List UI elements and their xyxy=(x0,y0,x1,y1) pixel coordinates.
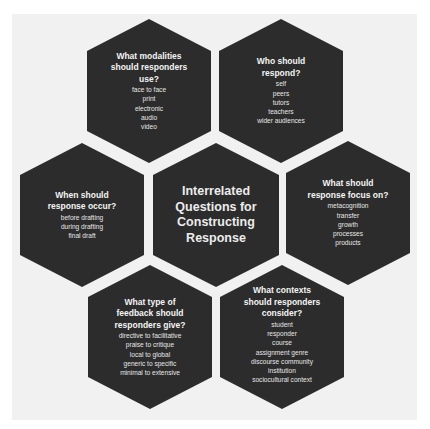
item: during drafting xyxy=(61,222,104,231)
question-line: Who should xyxy=(257,56,306,68)
question-line: responders give? xyxy=(115,320,186,332)
hex-items: before drafting during drafting final dr… xyxy=(61,213,104,241)
hex-question: Who should respond? xyxy=(257,56,306,79)
item: student xyxy=(251,320,313,329)
hex-question: What modalities should responders use? xyxy=(111,51,188,86)
hex-items: directive to facilitative praise to crit… xyxy=(119,331,182,377)
question-line: response occur? xyxy=(48,201,117,213)
question-line: What type of xyxy=(115,297,186,309)
item: directive to facilitative xyxy=(119,331,182,340)
hex-question: What should response focus on? xyxy=(308,178,389,201)
item: electronic xyxy=(132,104,166,113)
item: print xyxy=(132,94,166,103)
item: minimal to extensive xyxy=(119,368,182,377)
item: processes xyxy=(327,229,368,238)
question-line: use? xyxy=(111,74,188,86)
item: transfer xyxy=(327,211,368,220)
title-line: Constructing xyxy=(175,215,256,231)
item: growth xyxy=(327,220,368,229)
hex-question: What contexts should responders consider… xyxy=(244,285,321,320)
item: products xyxy=(327,238,368,247)
hex-question: When should response occur? xyxy=(48,190,117,213)
item: praise to critique xyxy=(119,340,182,349)
title-line: Response xyxy=(175,231,256,247)
hex-items: student responder course assignment genr… xyxy=(251,320,313,385)
question-line: consider? xyxy=(244,308,321,320)
question-line: should responders xyxy=(111,62,188,74)
item: peers xyxy=(257,89,305,98)
item: self xyxy=(257,79,305,88)
item: assignment genre xyxy=(251,348,313,357)
question-line: What should xyxy=(308,178,389,190)
title-line: Interrelated xyxy=(175,184,256,200)
item: metacognition xyxy=(327,201,368,210)
item: generic to specific xyxy=(119,359,182,368)
title-line: Questions for xyxy=(175,200,256,216)
item: final draft xyxy=(61,231,104,240)
question-line: response focus on? xyxy=(308,190,389,202)
item: responder xyxy=(251,329,313,338)
question-line: What contexts xyxy=(244,285,321,297)
item: institution xyxy=(251,366,313,375)
hex-question: What type of feedback should responders … xyxy=(115,297,186,332)
question-line: respond? xyxy=(257,68,306,80)
hex-items: face to face print electronic audio vide… xyxy=(132,85,166,131)
center-title: Interrelated Questions for Constructing … xyxy=(175,184,256,246)
hex-items: metacognition transfer growth processes … xyxy=(327,201,368,247)
question-line: should responders xyxy=(244,297,321,309)
item: wider audiences xyxy=(257,116,305,125)
question-line: feedback should xyxy=(115,308,186,320)
item: video xyxy=(132,122,166,131)
item: local to global xyxy=(119,350,182,359)
hex-items: self peers tutors teachers wider audienc… xyxy=(257,79,305,125)
item: before drafting xyxy=(61,213,104,222)
item: course xyxy=(251,338,313,347)
item: discourse community xyxy=(251,357,313,366)
item: audio xyxy=(132,113,166,122)
item: face to face xyxy=(132,85,166,94)
item: teachers xyxy=(257,107,305,116)
question-line: When should xyxy=(48,190,117,202)
item: tutors xyxy=(257,98,305,107)
item: sociocultural context xyxy=(251,375,313,384)
question-line: What modalities xyxy=(111,51,188,63)
